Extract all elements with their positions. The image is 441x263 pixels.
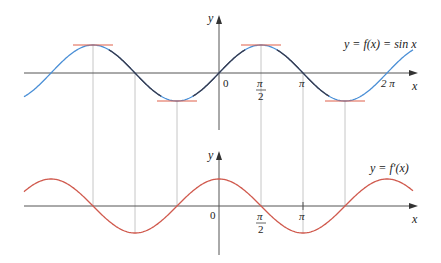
derivative-figure: y x 0 π 2 π 2 π y = f(x) = sin x y x 0 π… [0,0,441,263]
bottom-y-axis-arrow-icon [216,151,222,160]
top-pi-half-num: π [257,77,263,89]
top-origin-label: 0 [223,77,229,89]
top-y-label: y [207,11,214,25]
bottom-pi-label: π [299,210,305,222]
sin-curve-label: y = f(x) = sin x [343,37,417,51]
top-x-label: x [411,79,418,93]
top-pi-half-den: 2 [258,90,264,102]
top-x-axis-arrow-icon [409,70,418,76]
bottom-y-label: y [207,148,214,162]
bottom-pi-half-num: π [257,210,263,222]
top-two-pi-label: 2 π [381,77,395,89]
bottom-pi-half-den: 2 [258,223,264,235]
cos-curve-label: y = f′(x) [369,161,409,175]
bottom-origin-label: 0 [210,209,216,221]
bottom-graph: y x 0 π 2 π y = f′(x) [24,148,418,255]
top-y-axis-arrow-icon [216,15,222,24]
top-graph: y x 0 π 2 π 2 π y = f(x) = sin x [24,11,418,130]
bottom-x-label: x [411,212,418,226]
top-pi-label: π [299,77,305,89]
bottom-x-axis-arrow-icon [409,203,418,209]
